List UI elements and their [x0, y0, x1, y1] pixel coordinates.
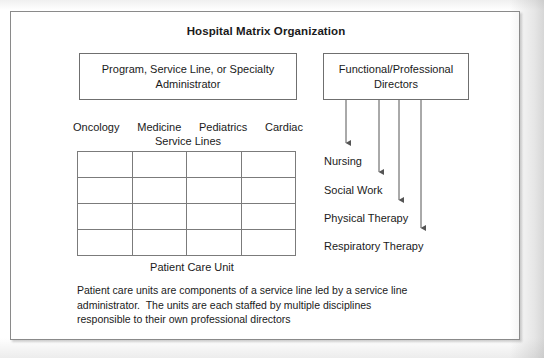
grid-cell — [187, 204, 242, 230]
table-row — [78, 152, 296, 178]
grid-cell — [132, 230, 187, 256]
administrator-line-1: Program, Service Line, or Specialty — [102, 63, 274, 75]
figure-caption: Patient care units are components of a s… — [77, 283, 472, 327]
caption-line-3: responsible to their own professional di… — [77, 312, 472, 327]
grid-cell — [78, 204, 133, 230]
service-line-headers: Oncology Medicine Pediatrics Cardiac — [73, 121, 303, 133]
page-edge-shadow-top — [0, 0, 544, 10]
service-lines-group-label: Service Lines — [73, 135, 303, 147]
directors-box: Functional/Professional Directors — [323, 53, 469, 100]
grid-cell — [187, 152, 242, 178]
table-row — [78, 204, 296, 230]
figure-title: Hospital Matrix Organization — [11, 25, 521, 37]
service-line-header-medicine: Medicine — [137, 121, 181, 133]
grid-cell — [187, 230, 242, 256]
grid-cell — [241, 230, 296, 256]
grid-cell — [187, 178, 242, 204]
administrator-line-2: Administrator — [156, 78, 221, 90]
page-edge-shadow-bottom — [0, 338, 544, 358]
discipline-label-physical-therapy: Physical Therapy — [324, 212, 408, 224]
scanned-page: Hospital Matrix Organization Program, Se… — [0, 0, 544, 358]
discipline-label-respiratory-therapy: Respiratory Therapy — [324, 240, 423, 252]
directors-box-text: Functional/Professional Directors — [339, 62, 453, 92]
administrator-box: Program, Service Line, or Specialty Admi… — [79, 53, 297, 100]
table-row — [78, 230, 296, 256]
grid-cell — [241, 204, 296, 230]
grid-cell — [132, 204, 187, 230]
grid-cell — [241, 178, 296, 204]
grid-cell — [78, 230, 133, 256]
service-line-header-pediatrics: Pediatrics — [199, 121, 247, 133]
discipline-label-nursing: Nursing — [324, 155, 362, 167]
figure-frame: Hospital Matrix Organization Program, Se… — [10, 11, 520, 340]
service-line-header-cardiac: Cardiac — [265, 121, 303, 133]
caption-line-1: Patient care units are components of a s… — [77, 283, 472, 298]
grid-cell — [241, 152, 296, 178]
table-row — [78, 178, 296, 204]
service-line-header-oncology: Oncology — [73, 121, 119, 133]
grid-cell — [132, 178, 187, 204]
patient-care-unit-grid — [77, 151, 296, 256]
patient-care-unit-label: Patient Care Unit — [77, 261, 307, 273]
grid-cell — [78, 178, 133, 204]
directors-line-1: Functional/Professional — [339, 63, 453, 75]
caption-line-2: administrator. The units are each staffe… — [77, 298, 472, 313]
discipline-label-social-work: Social Work — [324, 184, 382, 196]
grid-cell — [132, 152, 187, 178]
directors-line-2: Directors — [374, 78, 418, 90]
administrator-box-text: Program, Service Line, or Specialty Admi… — [102, 62, 274, 92]
grid-body — [78, 152, 296, 256]
grid-cell — [78, 152, 133, 178]
